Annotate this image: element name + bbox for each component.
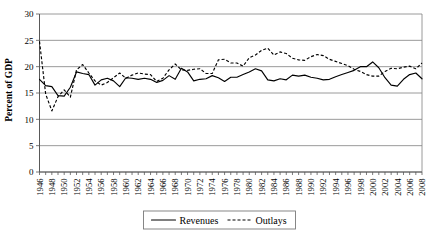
x-tick-label-1982: 1982	[257, 179, 267, 196]
y-axis-ticks: 051015202530	[25, 9, 40, 177]
x-tick-label-1998: 1998	[356, 179, 366, 196]
data-series-group	[40, 41, 423, 111]
x-tick-label-1970: 1970	[183, 179, 193, 196]
x-tick-label-1972: 1972	[195, 179, 205, 196]
y-tick-label-0: 0	[29, 167, 34, 177]
x-tick-label-1994: 1994	[331, 178, 341, 196]
y-tick-label-30: 30	[25, 9, 35, 19]
grid-lines	[40, 14, 423, 172]
x-axis-ticks: 1946194819501952195419561958196019621964…	[35, 172, 428, 196]
x-tick-label-1962: 1962	[133, 179, 143, 196]
x-tick-label-2004: 2004	[393, 178, 403, 196]
legend-label-outlays: Outlays	[256, 215, 287, 226]
series-line-outlays	[40, 41, 423, 111]
y-tick-label-15: 15	[25, 88, 35, 98]
x-tick-label-1974: 1974	[207, 178, 217, 196]
x-tick-label-1952: 1952	[72, 179, 82, 196]
chart-svg: 051015202530 194619481950195219541956195…	[0, 0, 436, 236]
x-tick-label-1986: 1986	[281, 178, 291, 196]
x-tick-label-1990: 1990	[306, 179, 316, 196]
x-tick-label-1996: 1996	[343, 178, 353, 196]
x-tick-label-1984: 1984	[269, 178, 279, 196]
x-tick-label-1958: 1958	[109, 179, 119, 196]
x-tick-label-1960: 1960	[121, 179, 131, 196]
x-tick-label-1954: 1954	[84, 178, 94, 196]
x-tick-label-2008: 2008	[417, 179, 427, 196]
x-tick-label-2000: 2000	[368, 179, 378, 196]
x-tick-label-1980: 1980	[244, 179, 254, 196]
x-tick-label-1964: 1964	[146, 178, 156, 196]
y-tick-label-10: 10	[25, 115, 35, 125]
x-tick-label-1950: 1950	[59, 179, 69, 196]
y-tick-label-20: 20	[25, 62, 35, 72]
x-tick-label-2002: 2002	[380, 179, 390, 196]
x-tick-label-1948: 1948	[47, 179, 57, 196]
x-tick-label-1956: 1956	[96, 178, 106, 196]
x-tick-label-1988: 1988	[294, 179, 304, 196]
y-tick-label-25: 25	[25, 36, 35, 46]
chart-legend: RevenuesOutlays	[144, 211, 296, 229]
x-tick-label-1976: 1976	[220, 178, 230, 196]
legend-label-revenues: Revenues	[180, 215, 219, 226]
x-tick-label-2006: 2006	[405, 178, 415, 196]
x-tick-label-1992: 1992	[318, 179, 328, 196]
x-tick-label-1946: 1946	[35, 178, 45, 196]
x-tick-label-1966: 1966	[158, 178, 168, 196]
x-tick-label-1968: 1968	[170, 179, 180, 196]
chart-container: Percent of GDP 051015202530 194619481950…	[0, 0, 436, 236]
x-tick-label-1978: 1978	[232, 179, 242, 196]
y-tick-label-5: 5	[29, 141, 34, 151]
